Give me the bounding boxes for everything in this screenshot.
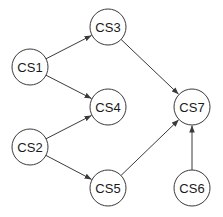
node-label: CS7	[179, 100, 204, 115]
node-cs4: CS4	[90, 89, 126, 125]
node-cs1: CS1	[12, 49, 48, 85]
prerequisite-graph: CS1CS2CS3CS4CS5CS6CS7	[0, 0, 223, 217]
edge-cs2-to-cs5	[46, 155, 92, 179]
node-cs6: CS6	[174, 170, 210, 206]
node-label: CS5	[95, 181, 120, 196]
node-cs5: CS5	[90, 170, 126, 206]
nodes-layer: CS1CS2CS3CS4CS5CS6CS7	[12, 9, 210, 206]
node-label: CS3	[95, 20, 120, 35]
node-label: CS4	[95, 100, 120, 115]
edge-cs2-to-cs4	[46, 115, 92, 138]
edge-cs1-to-cs3	[46, 35, 92, 58]
node-label: CS6	[179, 181, 204, 196]
node-cs2: CS2	[12, 129, 48, 165]
node-cs7: CS7	[174, 89, 210, 125]
node-label: CS2	[17, 140, 42, 155]
node-label: CS1	[17, 60, 42, 75]
edge-cs1-to-cs4	[46, 75, 92, 98]
node-cs3: CS3	[90, 9, 126, 45]
edge-cs5-to-cs7	[121, 120, 179, 176]
edge-cs3-to-cs7	[121, 39, 179, 94]
